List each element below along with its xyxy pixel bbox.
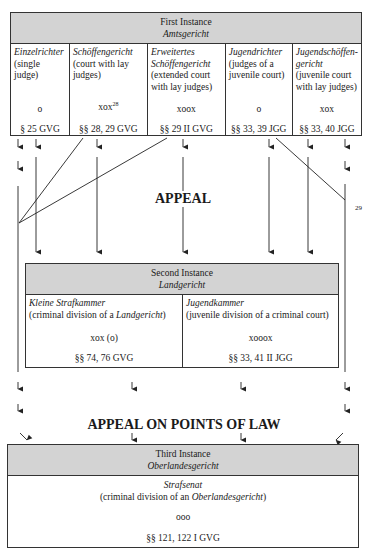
second-instance-title: Second Instance xyxy=(26,267,338,279)
court-name: Jugendschöffen- xyxy=(296,47,358,59)
second-instance-columns: Kleine Strafkammer (criminal division of… xyxy=(26,295,338,367)
court-desc: with lay judges) xyxy=(296,82,358,94)
court-desc: juvenile court) xyxy=(229,70,289,82)
court-desc: (juvenile court xyxy=(296,70,358,82)
court-name: Jugendrichter xyxy=(229,47,289,59)
statute: § 25 GVG xyxy=(11,124,69,136)
statute: §§ 74, 76 GVG xyxy=(26,353,182,365)
third-instance-court: Oberlandesgericht xyxy=(8,460,358,472)
statute: §§ 33, 39 JGG xyxy=(226,124,292,136)
court-name: Erweitertes xyxy=(151,47,222,59)
statute: §§ 33, 40 JGG xyxy=(293,124,361,136)
court-name: Schöffengericht xyxy=(73,47,144,59)
court-desc: judge) xyxy=(14,70,66,82)
statute: §§ 33, 41 II JGG xyxy=(183,353,338,365)
first-instance-table: First Instance Amtsgericht Einzelrichter… xyxy=(10,12,362,136)
statute: §§ 121, 122 I GVG xyxy=(8,533,358,545)
court-einzelrichter: Einzelrichter (single judge) o § 25 GVG xyxy=(11,44,70,135)
court-desc: (court with lay xyxy=(73,59,144,71)
second-instance-header: Second Instance Landgericht xyxy=(26,264,338,295)
court-name: Strafsenat xyxy=(8,480,358,492)
second-instance-court: Landgericht xyxy=(26,279,338,291)
first-instance-columns: Einzelrichter (single judge) o § 25 GVG … xyxy=(11,44,361,135)
second-instance-table: Second Instance Landgericht Kleine Straf… xyxy=(25,263,339,368)
statute: §§ 28, 29 GVG xyxy=(70,124,147,136)
third-instance-table: Third Instance Oberlandesgericht Strafse… xyxy=(7,444,359,548)
court-name: gericht xyxy=(296,59,358,71)
first-instance-header: First Instance Amtsgericht xyxy=(11,13,361,44)
third-instance-header: Third Instance Oberlandesgericht xyxy=(8,445,358,476)
court-name: Kleine Strafkammer xyxy=(29,298,179,310)
composition: o xyxy=(226,104,292,116)
appeal-on-points-of-law-label: APPEAL ON POINTS OF LAW xyxy=(86,417,282,433)
court-kleine-strafkammer: Kleine Strafkammer (criminal division of… xyxy=(26,295,183,367)
composition: o xyxy=(11,104,69,116)
court-jugendkammer: Jugendkammer (juvenile division of a cri… xyxy=(183,295,338,367)
court-name: Schöffengericht xyxy=(151,59,222,71)
composition: xooox xyxy=(183,333,338,345)
composition: xox28 xyxy=(70,102,147,114)
court-name: Jugendkammer xyxy=(186,298,335,310)
court-jugendrichter: Jugendrichter (judges of a juvenile cour… xyxy=(226,44,293,135)
composition: xox xyxy=(293,104,361,116)
composition: xox (o) xyxy=(26,333,182,345)
appeal-label: APPEAL xyxy=(150,191,216,207)
court-desc: (judges of a xyxy=(229,59,289,71)
court-desc: (criminal division of an Oberlandesgeric… xyxy=(8,492,358,504)
composition: ooo xyxy=(8,512,358,524)
court-jugendschoeffengericht: Jugendschöffen- gericht (juvenile court … xyxy=(293,44,361,135)
court-desc: (juvenile division of a criminal court) xyxy=(186,310,335,322)
third-instance-title: Third Instance xyxy=(8,448,358,460)
first-instance-court: Amtsgericht xyxy=(11,28,361,40)
court-desc: (extended court xyxy=(151,70,222,82)
statute: §§ 29 II GVG xyxy=(148,124,225,136)
strafsenat-cell: Strafsenat (criminal division of an Ober… xyxy=(8,476,358,547)
court-schoeffengericht: Schöffengericht (court with lay judges) … xyxy=(70,44,148,135)
first-instance-title: First Instance xyxy=(11,16,361,28)
court-name: Einzelrichter xyxy=(14,47,66,59)
appeal-footnote: 29 xyxy=(355,204,362,212)
court-desc: with lay judges) xyxy=(151,82,222,94)
court-desc: (criminal division of a Landgericht) xyxy=(29,310,179,322)
composition: xoox xyxy=(148,104,225,116)
footnote-marker: 28 xyxy=(113,101,119,107)
court-erweitertes-schoeffengericht: Erweitertes Schöffengericht (extended co… xyxy=(148,44,226,135)
court-desc: (single xyxy=(14,59,66,71)
court-desc: judges) xyxy=(73,70,144,82)
